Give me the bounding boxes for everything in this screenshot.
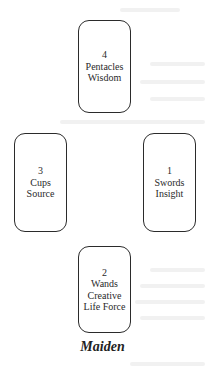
- card-suit: Pentacles: [86, 61, 124, 73]
- card-meaning: Creative: [88, 290, 122, 302]
- card-position-1: 1 Swords Insight: [143, 133, 196, 232]
- card-meaning: Wisdom: [88, 72, 122, 84]
- card-position-3: 3 Cups Source: [14, 133, 67, 232]
- card-number: 3: [38, 165, 43, 177]
- card-number: 1: [167, 165, 172, 177]
- card-meaning: Life Force: [84, 301, 126, 313]
- card-meaning: Insight: [156, 188, 184, 200]
- card-position-2: 2 Wands Creative Life Force: [78, 246, 131, 333]
- spread-caption: Maiden: [0, 339, 205, 355]
- card-position-4: 4 Pentacles Wisdom: [78, 20, 131, 113]
- card-meaning: Source: [27, 188, 55, 200]
- card-number: 4: [102, 49, 107, 61]
- card-suit: Swords: [154, 177, 184, 189]
- card-suit: Wands: [91, 278, 118, 290]
- card-number: 2: [102, 267, 107, 279]
- card-suit: Cups: [30, 177, 51, 189]
